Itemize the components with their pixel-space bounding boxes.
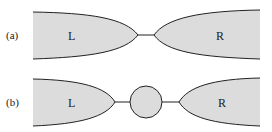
left-electrode xyxy=(33,12,138,59)
diagram: (a) L R (b) L R xyxy=(0,0,272,132)
left-label: L xyxy=(68,96,75,110)
panel-a: (a) L R xyxy=(6,10,260,59)
panel-b-label: (b) xyxy=(6,96,19,109)
right-label: R xyxy=(218,96,226,110)
right-electrode xyxy=(154,10,260,59)
left-label: L xyxy=(68,29,75,43)
right-label: R xyxy=(216,29,224,43)
panel-b: (b) L R xyxy=(6,78,260,126)
panel-a-label: (a) xyxy=(6,29,19,42)
quantum-dot xyxy=(130,86,162,118)
